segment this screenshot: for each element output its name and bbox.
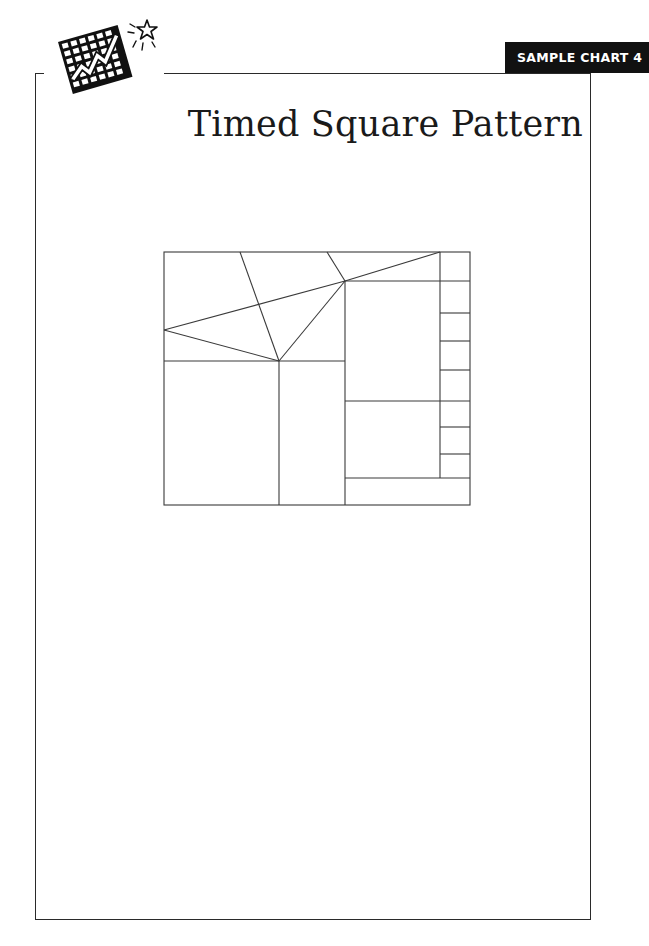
diagram-outer-rect bbox=[164, 252, 470, 505]
diagonal-line bbox=[164, 330, 279, 361]
diagonal-line bbox=[279, 281, 345, 361]
diagonal-line bbox=[327, 252, 345, 281]
diagonal-line bbox=[164, 281, 345, 330]
square-pattern-diagram bbox=[0, 0, 649, 946]
diagonal-line bbox=[240, 252, 279, 361]
diagonal-line bbox=[345, 252, 440, 281]
